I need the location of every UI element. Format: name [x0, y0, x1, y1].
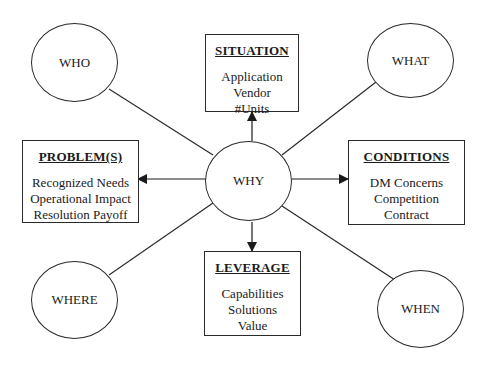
situation-box: SITUATION Application Vendor #Units [205, 34, 299, 112]
why-label: WHY [233, 173, 264, 189]
leverage-title: LEVERAGE [205, 260, 300, 276]
situation-item: #Units [206, 101, 298, 117]
conditions-item: Contract [349, 207, 464, 223]
problems-item: Operational Impact [23, 191, 138, 207]
leverage-item: Value [205, 318, 300, 334]
when-node: WHEN [377, 270, 464, 348]
problems-item: Recognized Needs [23, 175, 138, 191]
conditions-item: Competition [349, 191, 464, 207]
situation-item: Application [206, 69, 298, 85]
where-label: WHERE [51, 292, 97, 308]
what-node: WHAT [367, 23, 454, 98]
conditions-title: CONDITIONS [349, 149, 464, 165]
problems-item: Resolution Payoff [23, 207, 138, 223]
who-node: WHO [31, 23, 118, 102]
leverage-box: LEVERAGE Capabilities Solutions Value [204, 251, 301, 336]
problems-box: PROBLEM(S) Recognized Needs Operational … [22, 140, 139, 223]
problems-title: PROBLEM(S) [23, 149, 138, 165]
what-label: WHAT [392, 53, 430, 69]
leverage-item: Solutions [205, 302, 300, 318]
situation-item: Vendor [206, 85, 298, 101]
when-label: WHEN [401, 301, 440, 317]
situation-title: SITUATION [206, 43, 298, 59]
conditions-box: CONDITIONS DM Concerns Competition Contr… [348, 140, 465, 225]
where-node: WHERE [31, 261, 118, 339]
who-label: WHO [59, 55, 90, 71]
why-node: WHY [205, 141, 292, 221]
conditions-item: DM Concerns [349, 175, 464, 191]
leverage-item: Capabilities [205, 286, 300, 302]
